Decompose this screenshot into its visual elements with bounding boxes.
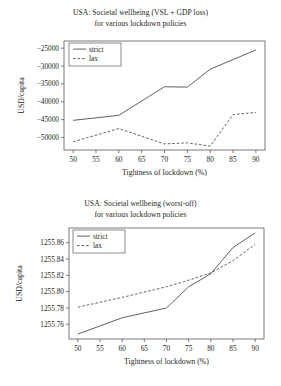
y-tick-label: −30000 xyxy=(37,62,60,71)
plot-area-bottom: 5055606570758085901255.861255.841255.821… xyxy=(0,193,281,386)
x-tick-label: 65 xyxy=(141,344,149,353)
x-tick-label: 90 xyxy=(251,344,259,353)
x-tick-label: 50 xyxy=(74,344,82,353)
x-tick-label: 85 xyxy=(229,155,237,164)
legend-label-strict: strict xyxy=(93,232,108,241)
plot-area-top: 505560657075808590−25000−30000−35000−400… xyxy=(0,0,281,193)
x-tick-label: 55 xyxy=(96,344,104,353)
figure-bottom: USA: Societal wellbeing (worst-off) for … xyxy=(0,193,281,386)
y-tick-label: −45000 xyxy=(37,115,60,124)
legend-label-lax: lax xyxy=(93,241,102,250)
x-tick-label: 50 xyxy=(69,155,77,164)
x-tick-label: 90 xyxy=(252,155,260,164)
x-tick-label: 85 xyxy=(229,344,237,353)
y-tick-label: 1255.80 xyxy=(40,287,64,296)
x-tick-label: 70 xyxy=(161,155,169,164)
y-tick-label: 1255.86 xyxy=(40,238,64,247)
x-axis-label: Tightness of lockdown (%) xyxy=(124,357,209,366)
y-tick-label: 1255.84 xyxy=(40,255,64,264)
figure-top: USA: Societal wellbeing (VSL + GDP loss)… xyxy=(0,0,281,193)
y-axis-label: USD/capita xyxy=(15,265,24,302)
x-tick-label: 80 xyxy=(207,155,215,164)
y-axis-label: USD/capita xyxy=(17,77,26,114)
series-line-lax xyxy=(78,244,255,307)
chart-svg-top: 505560657075808590−25000−30000−35000−400… xyxy=(0,0,281,193)
legend-label-strict: strict xyxy=(89,45,104,54)
x-tick-label: 75 xyxy=(185,344,193,353)
y-tick-label: −35000 xyxy=(37,79,60,88)
y-tick-label: 1255.78 xyxy=(40,304,64,313)
x-tick-label: 75 xyxy=(184,155,192,164)
y-tick-label: −40000 xyxy=(37,97,60,106)
legend-label-lax: lax xyxy=(89,54,98,63)
x-tick-label: 70 xyxy=(163,344,171,353)
y-tick-label: 1255.82 xyxy=(40,271,64,280)
x-tick-label: 65 xyxy=(138,155,146,164)
y-tick-label: 1255.76 xyxy=(40,320,64,329)
chart-svg-bottom: 5055606570758085901255.861255.841255.821… xyxy=(0,193,281,386)
y-tick-label: −50000 xyxy=(37,133,60,142)
x-tick-label: 60 xyxy=(119,344,127,353)
x-tick-label: 60 xyxy=(115,155,123,164)
x-tick-label: 55 xyxy=(92,155,100,164)
x-tick-label: 80 xyxy=(207,344,215,353)
x-axis-label: Tightness of lockdown (%) xyxy=(122,168,207,177)
y-tick-label: −25000 xyxy=(37,44,60,53)
